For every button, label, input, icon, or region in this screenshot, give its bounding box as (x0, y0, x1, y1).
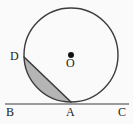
geometry-figure: D O B A C (0, 0, 133, 124)
point-label-A: A (66, 106, 75, 118)
point-label-B: B (6, 106, 14, 118)
point-label-C: C (118, 106, 126, 118)
point-label-D: D (10, 50, 19, 62)
point-label-O: O (66, 57, 75, 69)
